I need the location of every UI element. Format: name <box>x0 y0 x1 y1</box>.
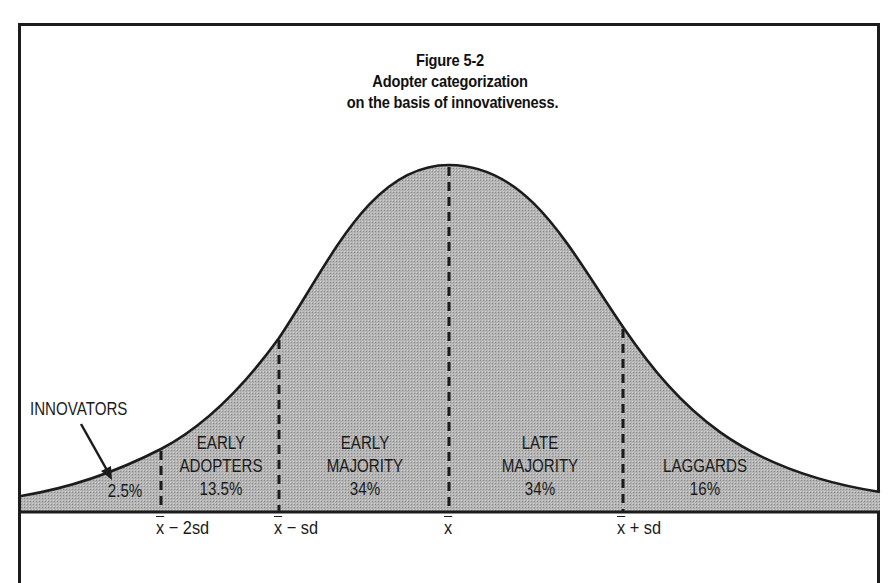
axis-label-suffix: − sd <box>282 517 318 538</box>
x-bar-symbol: x <box>274 517 282 538</box>
innovators-label: INNOVATORS <box>30 398 122 421</box>
innovators-arrow-icon <box>81 424 108 472</box>
category-percent: 13.5% <box>172 478 269 501</box>
axis-label-suffix: − 2sd <box>164 517 209 538</box>
axis-label-mean-minus-sd: x − sd <box>274 517 318 539</box>
x-bar-symbol: x <box>156 517 164 538</box>
category-name-line1: EARLY <box>302 432 428 455</box>
category-laggards: LAGGARDS 16% <box>642 455 768 501</box>
category-early-adopters: EARLY ADOPTERS 13.5% <box>172 432 269 501</box>
category-name-line2: MAJORITY <box>473 455 607 478</box>
axis-label-mean-plus-sd: x + sd <box>617 517 661 539</box>
category-percent: 34% <box>302 478 428 501</box>
axis-label-mean: x <box>444 517 452 539</box>
category-late-majority: LATE MAJORITY 34% <box>473 432 607 501</box>
category-percent: 16% <box>642 478 768 501</box>
category-name-line1: EARLY <box>172 432 269 455</box>
axis-label-mean-minus-2sd: x − 2sd <box>156 517 209 539</box>
category-name-line2: MAJORITY <box>302 455 428 478</box>
category-early-majority: EARLY MAJORITY 34% <box>302 432 428 501</box>
category-percent: 2.5% <box>96 480 155 503</box>
x-bar-symbol: x <box>617 517 625 538</box>
category-innovators: 2.5% <box>96 480 155 503</box>
category-name-line2: ADOPTERS <box>172 455 269 478</box>
category-name-line1: LATE <box>473 432 607 455</box>
x-bar-symbol: x <box>444 517 452 538</box>
axis-label-suffix: + sd <box>625 517 661 538</box>
category-percent: 34% <box>473 478 607 501</box>
category-name-line2: LAGGARDS <box>642 455 768 478</box>
